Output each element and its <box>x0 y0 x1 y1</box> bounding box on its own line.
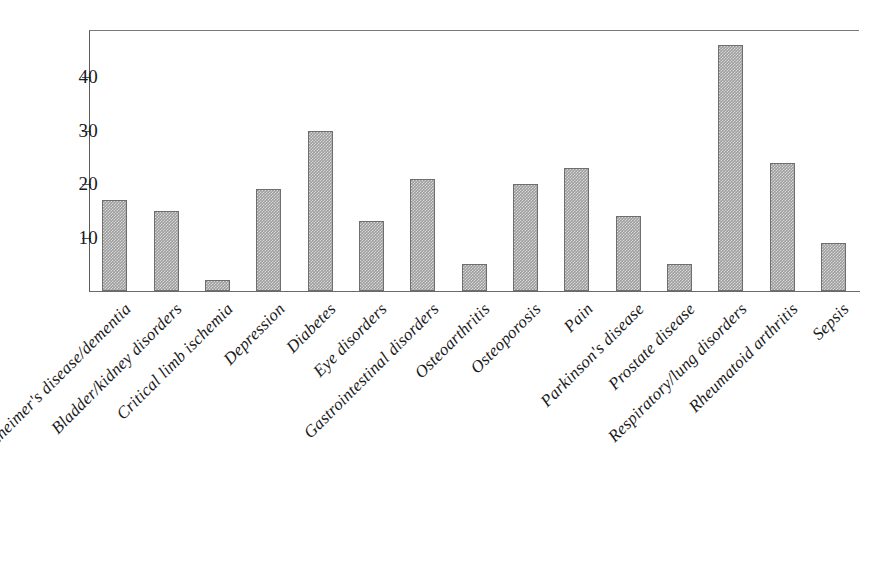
bar[interactable] <box>616 216 641 291</box>
bar[interactable] <box>308 131 333 292</box>
bar[interactable] <box>770 163 795 291</box>
bar[interactable] <box>513 184 538 291</box>
bar[interactable] <box>205 280 230 291</box>
bar[interactable] <box>718 45 743 291</box>
bar[interactable] <box>667 264 692 291</box>
bars-group <box>0 0 889 581</box>
bar[interactable] <box>410 179 435 291</box>
bar[interactable] <box>462 264 487 291</box>
bar-chart: 10203040 Alzheimer's disease/dementiaBla… <box>0 0 889 581</box>
bar[interactable] <box>564 168 589 291</box>
bar[interactable] <box>821 243 846 291</box>
bar[interactable] <box>359 221 384 291</box>
bar[interactable] <box>154 211 179 291</box>
bar[interactable] <box>102 200 127 291</box>
bar[interactable] <box>256 189 281 291</box>
